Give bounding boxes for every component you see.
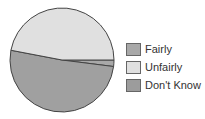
legend-swatch-fairly [126, 43, 141, 56]
pie-slices [10, 8, 114, 112]
legend: Fairly Unfairly Don't Know [126, 40, 201, 94]
legend-item-unfairly: Unfairly [126, 58, 201, 76]
legend-swatch-unfairly [126, 61, 141, 74]
legend-item-fairly: Fairly [126, 40, 201, 58]
legend-item-dont-know: Don't Know [126, 76, 201, 94]
pie-chart [0, 0, 120, 119]
legend-label: Fairly [145, 43, 172, 55]
legend-label: Don't Know [145, 79, 201, 91]
legend-label: Unfairly [145, 61, 182, 73]
legend-swatch-dont-know [126, 79, 141, 92]
pie-slice-unfairly [11, 8, 114, 60]
